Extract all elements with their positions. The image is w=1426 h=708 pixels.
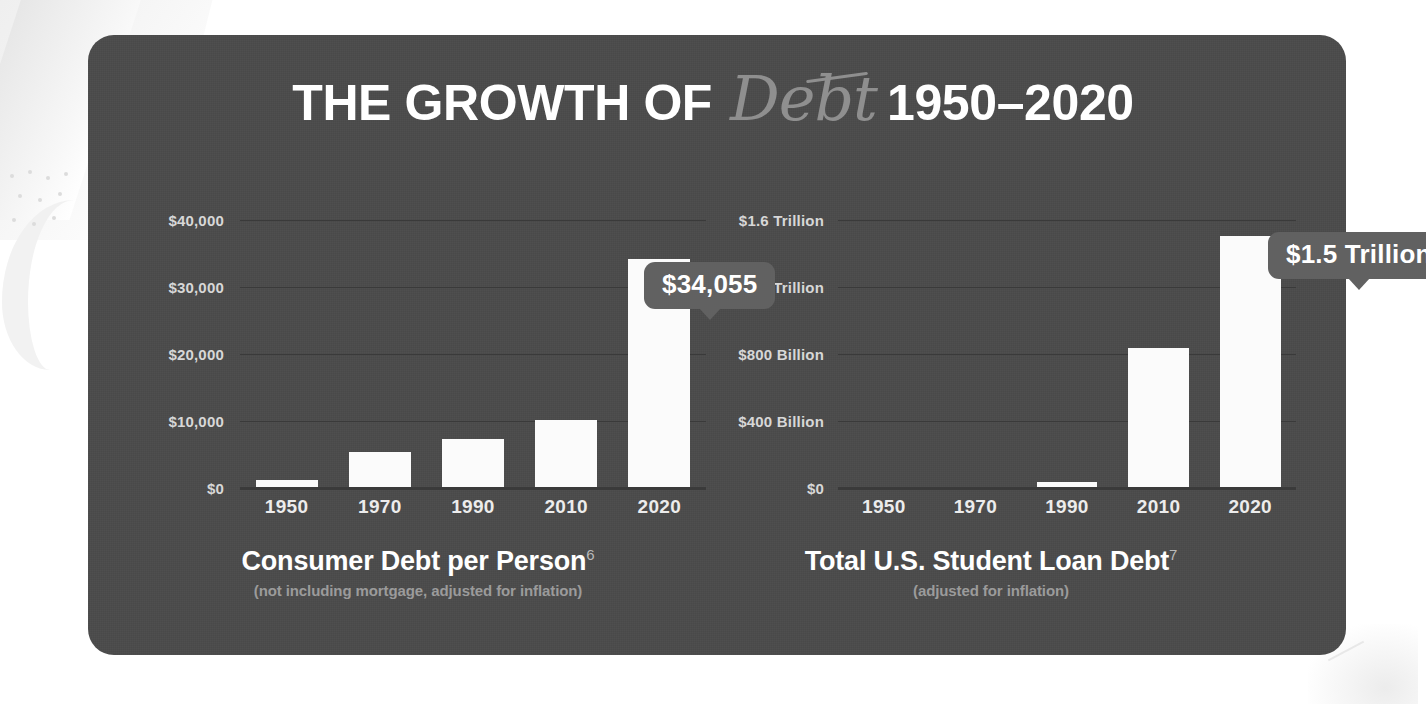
y-axis-tick-label: $800 Billion (738, 346, 824, 363)
x-axis-tick-label: 2020 (1207, 496, 1294, 518)
bar-slot (1023, 220, 1110, 487)
bar-group-student-loan-debt (838, 220, 1296, 487)
y-axis-tick-label: $20,000 (168, 346, 224, 363)
y-axis-tick-label: $40,000 (168, 212, 224, 229)
chart-panel-consumer-debt: $40,000 $30,000 $20,000 $10,000 $0 (118, 220, 718, 640)
chart-caption-student-loan-debt: Total U.S. Student Loan Debt7 (adjusted … (674, 546, 1308, 599)
bar-slot (336, 220, 425, 487)
chart-caption-consumer-debt: Consumer Debt per Person6 (not including… (118, 546, 718, 599)
x-axis-tick-label: 2010 (522, 496, 611, 518)
x-axis-labels-consumer-debt: 1950 1970 1990 2010 2020 (240, 496, 706, 518)
chart-caption-subtitle: (not including mortgage, adjusted for in… (118, 582, 718, 599)
chart-caption-title-text: Total U.S. Student Loan Debt (805, 546, 1169, 576)
bar-slot (522, 220, 611, 487)
footnote-marker: 6 (586, 546, 594, 563)
title-main-text: THE GROWTH OF (292, 78, 712, 128)
bar-slot (429, 220, 518, 487)
chart-caption-title: Total U.S. Student Loan Debt7 (674, 546, 1308, 577)
bar-slot (242, 220, 331, 487)
chart-caption-title-text: Consumer Debt per Person (242, 546, 587, 576)
chart-caption-title: Consumer Debt per Person6 (118, 546, 718, 577)
y-axis-tick-label: $30,000 (168, 279, 224, 296)
x-axis-line (240, 487, 706, 490)
x-axis-tick-label: 1990 (429, 496, 518, 518)
title-year-range: 1950–2020 (887, 78, 1134, 128)
plot-area-student-loan-debt: $1.6 Trillion $1.2 Trillion $800 Billion… (838, 220, 1296, 490)
bar-group-consumer-debt (240, 220, 706, 487)
x-axis-tick-label: 1950 (840, 496, 927, 518)
x-axis-tick-label: 1990 (1023, 496, 1110, 518)
decorative-dot-cluster (8, 170, 88, 260)
x-axis-tick-label: 1970 (336, 496, 425, 518)
bar-1950 (256, 480, 318, 487)
x-axis-tick-label: 2010 (1115, 496, 1202, 518)
y-axis-tick-label: $0 (807, 480, 824, 497)
value-callout-consumer-debt: $34,055 (644, 262, 775, 309)
x-axis-labels-student-loan-debt: 1950 1970 1990 2010 2020 (838, 496, 1296, 518)
bar-1990 (1037, 482, 1098, 487)
infographic-canvas: THE GROWTH OF Debt 1950–2020 $40,000 $30… (0, 0, 1426, 708)
chart-panel-student-loan-debt: $1.6 Trillion $1.2 Trillion $800 Billion… (688, 220, 1308, 640)
plot-area-consumer-debt: $40,000 $30,000 $20,000 $10,000 $0 (240, 220, 706, 490)
title-script-word: Debt (730, 68, 877, 130)
y-axis-tick-label: $1.6 Trillion (739, 212, 824, 229)
value-callout-student-loan-debt: $1.5 Trillion (1268, 232, 1426, 279)
y-axis-tick-label: $0 (207, 480, 224, 497)
bar-slot (932, 220, 1019, 487)
x-axis-line (838, 487, 1296, 490)
bar-2010 (535, 420, 597, 487)
y-axis-tick-label: $400 Billion (738, 413, 824, 430)
bar-1970 (349, 452, 411, 487)
bar-2010 (1128, 348, 1189, 487)
y-axis-tick-label: $10,000 (168, 413, 224, 430)
bar-1990 (442, 439, 504, 487)
x-axis-tick-label: 1970 (932, 496, 1019, 518)
bar-slot (840, 220, 927, 487)
x-axis-tick-label: 1950 (242, 496, 331, 518)
footnote-marker: 7 (1169, 546, 1177, 563)
infographic-title: THE GROWTH OF Debt 1950–2020 (0, 76, 1426, 130)
bar-slot (1115, 220, 1202, 487)
chart-caption-subtitle: (adjusted for inflation) (674, 582, 1308, 599)
